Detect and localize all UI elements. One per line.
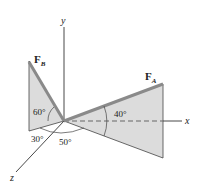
fa-label: FA <box>145 70 157 85</box>
z-axis-label: z <box>9 172 14 183</box>
force-diagram: y x z FB FA 40° 60° 30° 50° <box>0 0 198 192</box>
z-axis <box>16 121 64 172</box>
angle-30-label: 30° <box>31 134 44 144</box>
angle-60-label: 60° <box>33 107 46 117</box>
fb-label: FB <box>34 53 46 68</box>
angle-40-label: 40° <box>114 109 127 119</box>
angle-50-label: 50° <box>59 137 72 147</box>
y-axis-label: y <box>60 15 66 26</box>
arc-50 <box>40 128 84 133</box>
x-axis-label: x <box>184 115 190 126</box>
